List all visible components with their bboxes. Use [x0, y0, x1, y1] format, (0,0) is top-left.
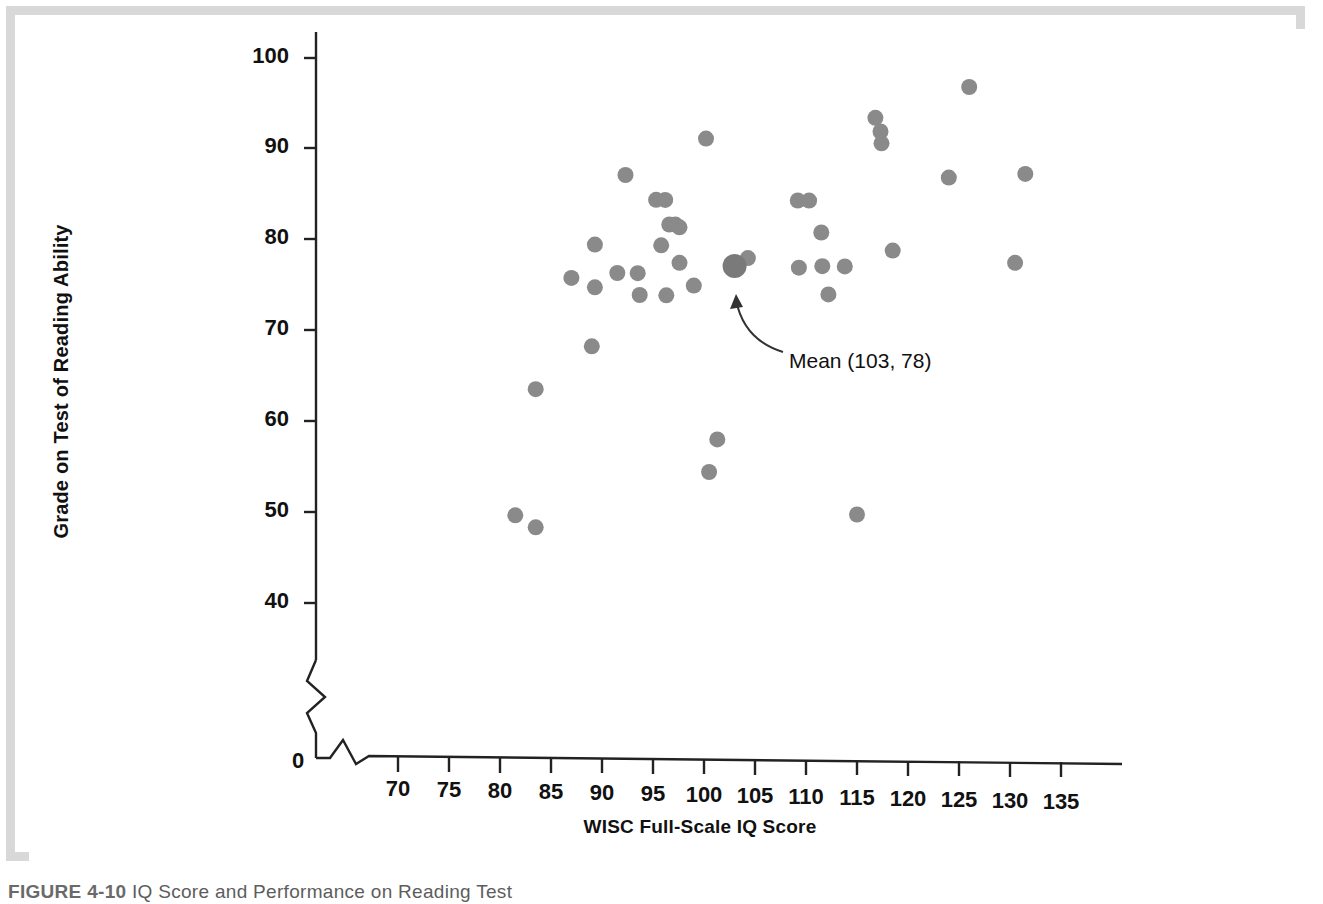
x-tick-label-135: 135	[1031, 789, 1091, 815]
scatter-plot: 100 90 80 70 60 50 40 0 70 75 80 85 90 9…	[0, 0, 1323, 904]
y-tick-marks	[304, 58, 316, 603]
figure-caption: FIGURE 4-10 IQ Score and Performance on …	[6, 884, 1316, 904]
y-tick-label-70: 70	[225, 315, 289, 341]
y-axis-break-icon	[307, 660, 325, 758]
data-point	[813, 225, 829, 241]
data-point	[1007, 255, 1023, 271]
data-point	[961, 79, 977, 95]
figure-caption-label: FIGURE 4-10	[8, 884, 126, 902]
data-point	[528, 519, 544, 535]
data-point	[849, 507, 865, 523]
data-point	[885, 243, 901, 259]
data-point	[686, 278, 702, 294]
data-point	[657, 192, 673, 208]
data-point	[1017, 166, 1033, 182]
y-tick-label-90: 90	[225, 133, 289, 159]
data-point	[630, 265, 646, 281]
data-point	[791, 260, 807, 276]
data-point	[941, 170, 957, 186]
y-tick-label-60: 60	[225, 406, 289, 432]
data-point	[814, 258, 830, 274]
y-axis-title: Grade on Test of Reading Ability	[50, 217, 73, 547]
data-point	[609, 265, 625, 281]
data-point	[837, 258, 853, 274]
data-point	[587, 279, 603, 295]
data-point	[672, 255, 688, 271]
data-point	[632, 287, 648, 303]
plot-canvas	[0, 0, 1323, 904]
data-point	[563, 270, 579, 286]
origin-label: 0	[283, 748, 313, 774]
data-point	[701, 464, 717, 480]
data-point	[658, 287, 674, 303]
figure-caption-text: FIGURE 4-10 IQ Score and Performance on …	[8, 884, 512, 903]
y-tick-label-100: 100	[225, 43, 289, 69]
data-point	[584, 338, 600, 354]
data-point	[867, 110, 883, 126]
figure-caption-body: IQ Score and Performance on Reading Test	[132, 884, 512, 902]
data-points	[507, 79, 1033, 535]
data-point	[653, 237, 669, 253]
data-point	[709, 431, 725, 447]
data-point	[528, 381, 544, 397]
data-point	[820, 286, 836, 302]
data-point	[587, 237, 603, 253]
data-point	[618, 167, 634, 183]
data-point	[672, 219, 688, 235]
mean-annotation-label: Mean (103, 78)	[789, 349, 931, 373]
data-point	[698, 131, 714, 147]
x-axis-title: WISC Full-Scale IQ Score	[470, 816, 930, 838]
data-point	[801, 193, 817, 209]
data-point	[507, 507, 523, 523]
y-tick-label-50: 50	[225, 497, 289, 523]
y-tick-label-40: 40	[225, 588, 289, 614]
y-tick-label-80: 80	[225, 224, 289, 250]
x-axis-line	[316, 740, 1122, 764]
figure-page: 100 90 80 70 60 50 40 0 70 75 80 85 90 9…	[0, 0, 1323, 904]
data-point	[874, 135, 890, 151]
mean-annotation-arrow	[730, 294, 783, 352]
mean-point	[723, 254, 747, 278]
